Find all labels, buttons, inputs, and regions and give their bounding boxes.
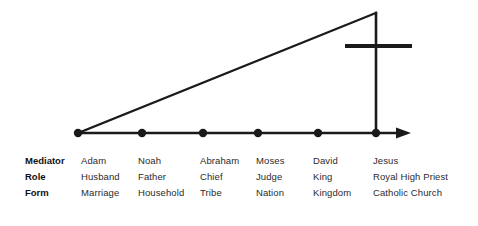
cell-mediator-jesus: Jesus (373, 155, 398, 166)
cell-form-adam: Marriage (81, 187, 119, 198)
point-noah[interactable] (138, 129, 146, 137)
row-header-mediator: Mediator (25, 155, 65, 166)
cell-mediator-adam: Adam (81, 155, 106, 166)
point-david[interactable] (314, 129, 322, 137)
cell-role-david: King (313, 171, 332, 182)
cell-mediator-abraham: Abraham (200, 155, 239, 166)
point-abraham[interactable] (199, 129, 207, 137)
covenant-progression-figure: Mediator Role Form Adam Noah Abraham Mos… (0, 0, 478, 226)
cell-form-noah: Household (138, 187, 184, 198)
cell-role-adam: Husband (81, 171, 120, 182)
cell-role-noah: Father (138, 171, 166, 182)
point-moses[interactable] (254, 129, 262, 137)
cell-mediator-david: David (313, 155, 338, 166)
cell-mediator-noah: Noah (138, 155, 161, 166)
row-header-form: Form (25, 187, 49, 198)
cell-mediator-moses: Moses (256, 155, 284, 166)
cell-role-abraham: Chief (200, 171, 223, 182)
cell-role-jesus: Royal High Priest (373, 171, 448, 182)
cell-role-moses: Judge (256, 171, 282, 182)
cell-form-moses: Nation (256, 187, 284, 198)
row-header-role: Role (25, 171, 46, 182)
cell-form-jesus: Catholic Church (373, 187, 442, 198)
cell-form-david: Kingdom (313, 187, 351, 198)
cell-form-abraham: Tribe (200, 187, 222, 198)
point-adam[interactable] (74, 129, 82, 137)
point-jesus[interactable] (372, 129, 380, 137)
ascending-development-line (78, 13, 376, 133)
axis-arrowhead-icon (396, 128, 411, 139)
